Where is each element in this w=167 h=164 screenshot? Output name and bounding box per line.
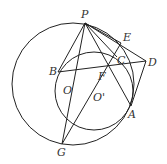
label-B: B: [48, 65, 57, 78]
label-E: E: [122, 31, 131, 44]
segment-PB: [58, 23, 85, 72]
label-P: P: [80, 8, 89, 21]
label-O: O: [63, 84, 72, 97]
segment-DA: [131, 61, 146, 106]
label-D: D: [147, 56, 157, 69]
label-F: F: [97, 70, 106, 83]
diagram-canvas: P E D C B F O O' A G: [0, 0, 167, 164]
geometry-diagram: P E D C B F O O' A G: [0, 0, 167, 164]
label-O-prime: O': [93, 91, 105, 104]
label-C: C: [117, 54, 126, 67]
label-A: A: [127, 108, 136, 121]
label-G: G: [57, 146, 66, 159]
